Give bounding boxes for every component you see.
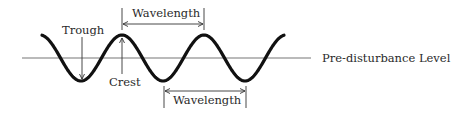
baseline-label: Pre-disturbance Level: [322, 51, 451, 65]
wavelength-top-label: Wavelength: [132, 6, 201, 20]
trough-label: Trough: [62, 23, 105, 37]
wave-diagram: Trough Crest Wavelength Wavelength Pre-d…: [0, 0, 465, 117]
crest-label: Crest: [109, 75, 141, 89]
wavelength-bottom-label: Wavelength: [173, 93, 242, 107]
